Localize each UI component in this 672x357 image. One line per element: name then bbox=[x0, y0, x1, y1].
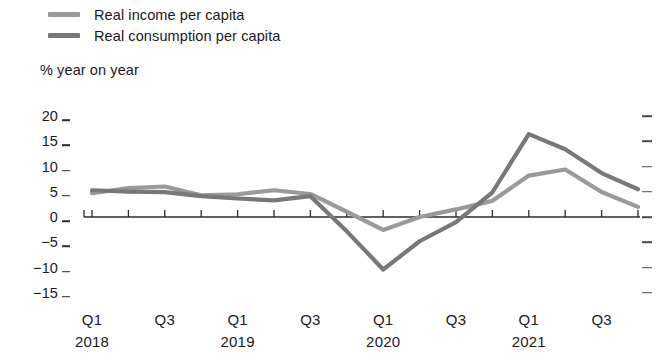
x-tick-label: Q3 bbox=[591, 311, 611, 328]
x-tick-label: Q3 bbox=[300, 311, 320, 328]
y-tick-mark bbox=[62, 220, 70, 222]
x-tick-label: Q1 bbox=[227, 311, 247, 328]
chart-page: Real income per capita Real consumption … bbox=[0, 0, 672, 357]
chart-plot-area: 20151050−5−10−15Q1Q3Q1Q3Q1Q3Q1Q320182019… bbox=[0, 0, 672, 357]
y-tick-mark-right bbox=[642, 292, 652, 294]
x-year-label: 2020 bbox=[366, 333, 400, 350]
x-tick-label: Q1 bbox=[373, 311, 393, 328]
y-tick-label: −10 bbox=[14, 260, 58, 276]
y-tick-mark-right bbox=[642, 166, 652, 168]
y-tick-mark bbox=[62, 271, 70, 273]
y-tick-mark-right bbox=[642, 115, 652, 117]
x-year-label: 2021 bbox=[512, 333, 546, 350]
y-tick-label: 20 bbox=[14, 108, 58, 124]
y-tick-mark-right bbox=[642, 191, 652, 193]
y-tick-label: 10 bbox=[14, 159, 58, 175]
y-tick-mark-right bbox=[642, 140, 652, 142]
y-tick-mark-right bbox=[642, 267, 652, 269]
y-tick-label: 5 bbox=[14, 184, 58, 200]
x-tick-label: Q3 bbox=[155, 311, 175, 328]
y-tick-label: −15 bbox=[14, 285, 58, 301]
x-year-label: 2019 bbox=[221, 333, 255, 350]
y-tick-label: 15 bbox=[14, 133, 58, 149]
chart-lines-svg bbox=[0, 0, 672, 357]
y-tick-mark bbox=[62, 195, 70, 197]
y-tick-mark bbox=[62, 144, 70, 146]
x-tick-label: Q1 bbox=[82, 311, 102, 328]
y-tick-mark bbox=[62, 170, 70, 172]
y-tick-mark bbox=[62, 245, 70, 247]
x-tick-label: Q1 bbox=[519, 311, 539, 328]
x-tick-label: Q3 bbox=[446, 311, 466, 328]
y-tick-mark bbox=[62, 119, 70, 121]
series-line-income bbox=[92, 170, 638, 230]
y-tick-mark-right bbox=[642, 216, 652, 218]
series-line-consumption bbox=[92, 134, 638, 269]
y-tick-mark-right bbox=[642, 241, 652, 243]
y-tick-label: −5 bbox=[14, 234, 58, 250]
y-tick-mark bbox=[62, 296, 70, 298]
x-year-label: 2018 bbox=[75, 333, 109, 350]
y-tick-label: 0 bbox=[14, 209, 58, 225]
